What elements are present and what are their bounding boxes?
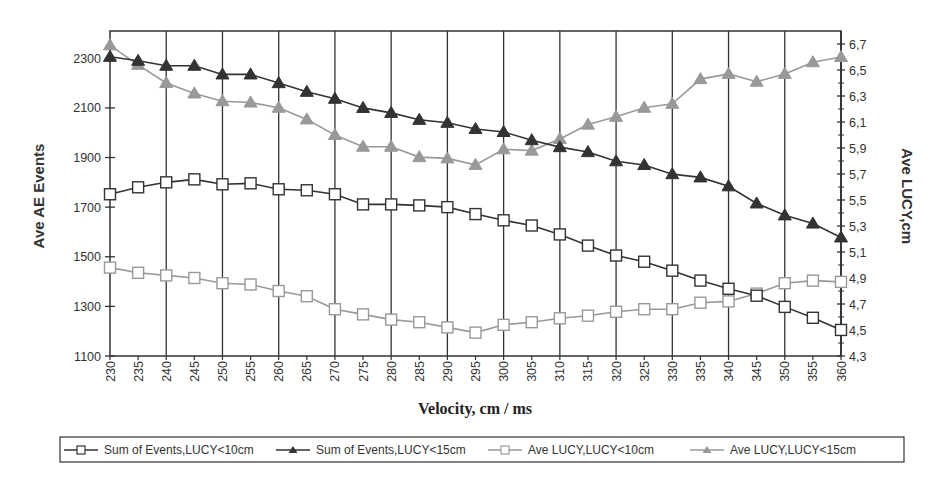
legend: Sum of Events,LUCY<10cmSum of Events,LUC… [60, 437, 904, 462]
x-tick-label: 300 [497, 361, 511, 382]
right-y-axis: 4,34,54,74,95,15,35,55,75,96,16,36,56,7 [837, 31, 866, 364]
data-point [105, 262, 116, 273]
data-point [526, 317, 537, 328]
data-point [245, 279, 256, 290]
x-tick-label: 260 [272, 361, 286, 382]
data-point [104, 50, 117, 61]
y2-tick-label: 4,5 [849, 324, 866, 338]
y-tick-label: 1100 [74, 350, 101, 364]
chart: 1100130015001700190021002300 4,34,54,74,… [0, 0, 934, 489]
data-point [386, 199, 397, 210]
data-point [104, 39, 117, 50]
legend-label: Ave LUCY,LUCY<15cm [730, 443, 856, 457]
data-point [750, 197, 763, 208]
data-point [497, 143, 510, 154]
data-point [442, 202, 453, 213]
data-point [498, 319, 509, 330]
x-tick-label: 340 [722, 361, 736, 382]
data-point [722, 67, 735, 78]
y2-tick-label: 5,7 [849, 168, 866, 182]
legend-square-marker [501, 446, 509, 454]
y-tick-label: 1900 [73, 151, 101, 165]
x-tick-label: 230 [104, 361, 118, 382]
x-tick-label: 295 [469, 361, 483, 382]
x-tick-label: 245 [188, 361, 202, 382]
data-point [217, 179, 228, 190]
y2-tick-label: 4,7 [849, 298, 866, 312]
data-point [582, 240, 593, 251]
data-point [751, 290, 762, 301]
x-tick-label: 345 [750, 361, 764, 382]
y2-tick-label: 5,9 [849, 142, 866, 156]
legend-label: Sum of Events,LUCY<10cm [104, 443, 254, 457]
x-tick-label: 275 [357, 361, 371, 382]
x-tick-label: 255 [244, 361, 258, 382]
x-tick-label: 305 [525, 361, 539, 382]
data-point [778, 67, 791, 78]
data-point [300, 113, 313, 124]
data-point [273, 286, 284, 297]
data-point [414, 200, 425, 211]
data-point [639, 304, 650, 315]
data-point [470, 209, 481, 220]
data-point [723, 296, 734, 307]
x-tick-label: 330 [666, 361, 680, 382]
y2-tick-label: 5,5 [849, 194, 866, 208]
data-point [723, 283, 734, 294]
x-tick-label: 235 [132, 361, 146, 382]
data-point [160, 77, 173, 88]
data-point [217, 278, 228, 289]
y2-tick-label: 6,1 [849, 116, 866, 130]
data-point [301, 291, 312, 302]
y-axis-title: Ave AE Events [30, 144, 47, 249]
data-point [470, 327, 481, 338]
y-tick-label: 1700 [73, 201, 101, 215]
data-point [133, 267, 144, 278]
data-point [105, 189, 116, 200]
y2-tick-label: 5,3 [849, 220, 866, 234]
x-tick-label: 355 [806, 361, 820, 382]
data-point [526, 220, 537, 231]
legend-label: Ave LUCY,LUCY<10cm [528, 443, 654, 457]
x-tick-label: 315 [581, 361, 595, 382]
data-point [358, 199, 369, 210]
series-group [104, 39, 848, 338]
y2-tick-label: 6,3 [849, 90, 866, 104]
data-point [133, 182, 144, 193]
data-point [498, 215, 509, 226]
data-point [357, 140, 370, 151]
y2-tick-label: 6,7 [849, 38, 866, 52]
data-point [385, 140, 398, 151]
data-point [329, 189, 340, 200]
data-point [554, 229, 565, 240]
x-axis-title: Velocity, cm / ms [418, 400, 532, 418]
data-point [836, 324, 847, 335]
y-tick-label: 1500 [73, 250, 101, 264]
legend-square-marker [77, 446, 85, 454]
y-tick-label: 1300 [73, 300, 101, 314]
x-tick-label: 360 [835, 361, 849, 382]
y2-tick-label: 4,3 [849, 350, 866, 364]
x-axis: 2302352402452502552602652702752802852902… [104, 356, 849, 382]
data-point [161, 177, 172, 188]
x-tick-label: 290 [441, 361, 455, 382]
data-point [778, 209, 791, 220]
y-tick-label: 2100 [73, 101, 101, 115]
data-point [328, 129, 341, 140]
x-tick-label: 280 [385, 361, 399, 382]
data-point [244, 68, 257, 79]
data-point [188, 59, 201, 70]
data-point [189, 273, 200, 284]
y2-tick-label: 6,5 [849, 64, 866, 78]
data-point [414, 317, 425, 328]
x-tick-label: 285 [413, 361, 427, 382]
x-tick-label: 335 [694, 361, 708, 382]
data-point [807, 275, 818, 286]
data-point [779, 278, 790, 289]
data-point [329, 304, 340, 315]
y-tick-label: 2300 [73, 52, 101, 66]
data-point [695, 297, 706, 308]
x-tick-label: 240 [160, 361, 174, 382]
data-point [667, 265, 678, 276]
y2-tick-label: 4,9 [849, 272, 866, 286]
